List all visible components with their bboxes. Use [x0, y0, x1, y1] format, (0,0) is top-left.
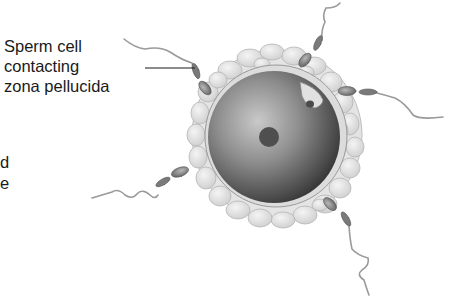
sperm-contacting-zona-label: Sperm cell contacting zona pellucida [4, 36, 110, 96]
label-line: d [0, 152, 9, 173]
nucleus [259, 127, 279, 147]
label-line: contacting [4, 56, 110, 76]
label-line: Sperm cell [4, 36, 110, 56]
label-line: zona pellucida [4, 76, 110, 96]
partial-cut-off-label: d e [0, 152, 9, 194]
label-line: e [0, 173, 9, 194]
sperm-cell-lower-left [92, 165, 190, 198]
